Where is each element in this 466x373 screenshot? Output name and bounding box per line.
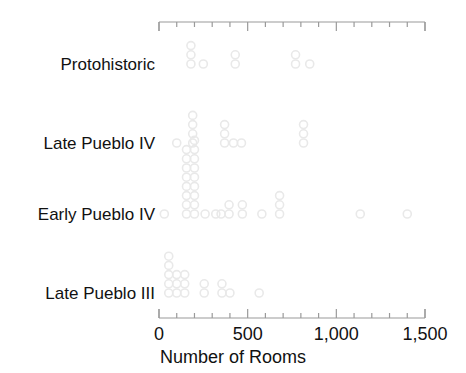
data-point bbox=[190, 173, 198, 181]
data-point bbox=[182, 146, 190, 154]
data-point bbox=[238, 201, 246, 209]
x-tick-label-1500: 1,500 bbox=[402, 325, 447, 343]
data-point bbox=[225, 201, 233, 209]
data-point bbox=[182, 182, 190, 190]
data-point bbox=[181, 271, 189, 279]
data-point bbox=[160, 210, 168, 218]
data-point bbox=[225, 210, 233, 218]
data-point bbox=[181, 289, 189, 297]
data-point bbox=[306, 60, 314, 68]
data-point bbox=[276, 201, 284, 209]
data-point bbox=[231, 51, 239, 59]
data-point bbox=[221, 139, 229, 147]
data-point bbox=[182, 201, 190, 209]
data-point bbox=[231, 60, 239, 68]
dot-plot-chart: ProtohistoricLate Pueblo IVEarly Pueblo … bbox=[0, 0, 466, 373]
data-point bbox=[226, 289, 234, 297]
data-point bbox=[258, 210, 266, 218]
data-point bbox=[221, 121, 229, 129]
data-point bbox=[173, 271, 181, 279]
data-point bbox=[187, 51, 195, 59]
data-point bbox=[165, 252, 173, 260]
data-point bbox=[356, 210, 364, 218]
data-point bbox=[200, 289, 208, 297]
data-point bbox=[403, 210, 411, 218]
data-point bbox=[173, 280, 181, 288]
data-point bbox=[165, 280, 173, 288]
data-point bbox=[238, 210, 246, 218]
x-tick-label-1000: 1,000 bbox=[314, 325, 359, 343]
data-point bbox=[190, 201, 198, 209]
data-point bbox=[276, 192, 284, 200]
data-point bbox=[165, 271, 173, 279]
data-point bbox=[173, 139, 181, 147]
data-point bbox=[190, 182, 198, 190]
data-point bbox=[292, 51, 300, 59]
data-point bbox=[218, 289, 226, 297]
data-point bbox=[199, 60, 207, 68]
data-points-group bbox=[160, 42, 411, 297]
data-point bbox=[189, 121, 197, 129]
data-point bbox=[181, 280, 189, 288]
data-point bbox=[182, 173, 190, 181]
data-point bbox=[276, 210, 284, 218]
data-point bbox=[190, 164, 198, 172]
x-tick-label-0: 0 bbox=[154, 325, 164, 343]
category-label-early-pueblo-iv: Early Pueblo IV bbox=[38, 206, 155, 223]
data-point bbox=[217, 210, 225, 218]
data-point bbox=[190, 155, 198, 163]
data-point bbox=[189, 111, 197, 119]
data-point bbox=[300, 130, 308, 138]
category-label-protohistoric: Protohistoric bbox=[61, 56, 155, 73]
data-point bbox=[229, 139, 237, 147]
x-axis-title: Number of Rooms bbox=[0, 348, 466, 366]
data-point bbox=[292, 60, 300, 68]
data-point bbox=[300, 121, 308, 129]
data-point bbox=[300, 139, 308, 147]
data-point bbox=[190, 192, 198, 200]
data-point bbox=[165, 289, 173, 297]
data-point bbox=[187, 42, 195, 50]
data-point bbox=[221, 130, 229, 138]
data-point bbox=[255, 289, 263, 297]
data-point bbox=[182, 210, 190, 218]
category-label-late-pueblo-iv: Late Pueblo IV bbox=[43, 135, 155, 152]
data-point bbox=[201, 210, 209, 218]
x-tick-label-500: 500 bbox=[233, 325, 263, 343]
data-point bbox=[173, 289, 181, 297]
data-point bbox=[165, 261, 173, 269]
data-point bbox=[190, 210, 198, 218]
data-point bbox=[182, 164, 190, 172]
data-point bbox=[200, 280, 208, 288]
data-point bbox=[182, 155, 190, 163]
data-point bbox=[237, 139, 245, 147]
data-point bbox=[218, 280, 226, 288]
data-point bbox=[187, 60, 195, 68]
category-label-late-pueblo-iii: Late Pueblo III bbox=[45, 285, 155, 302]
data-point bbox=[182, 192, 190, 200]
